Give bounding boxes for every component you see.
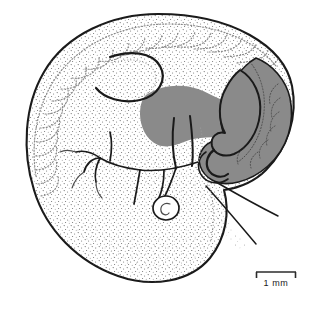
embryo-illustration <box>0 0 317 310</box>
otic-vesicle <box>153 196 179 220</box>
scale-bar-label: 1 mm <box>248 278 304 289</box>
figure-root: 1 mm <box>0 0 317 310</box>
